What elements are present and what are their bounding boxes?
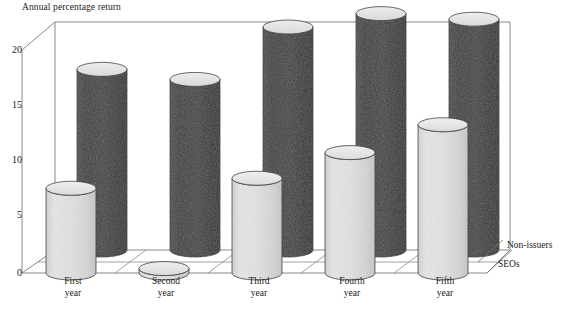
category-label-first-year: First year [40,276,106,299]
y-tick-5: 5 [0,209,22,220]
cylinder-top [170,72,220,86]
figure-caption [14,305,565,313]
bars-layer [46,7,499,280]
category-label-fifth-year: Fifth year [412,276,478,299]
cylinder-top [46,181,96,195]
category-line-2: year [65,288,81,298]
legend-label-non-issuers: Non-issuers [507,240,552,250]
y-axis-title: Annual percentage return [22,2,121,12]
bar-non-issuers-1 [170,72,220,257]
chart-container: Annual percentage return 20 15 10 5 0 Fi… [0,0,565,313]
cylinder-body [170,79,220,257]
category-label-fourth-year: Fourth year [319,276,385,299]
category-line-1: Third [248,276,269,286]
category-label-second-year: Second year [133,276,199,299]
category-label-third-year: Third year [226,276,292,299]
bar-seos-2 [232,171,282,280]
category-line-2: year [158,288,174,298]
bar-seos-0 [46,181,96,280]
cylinder-top [232,171,282,185]
cylinder-top [356,7,406,21]
category-line-1: First [64,276,81,286]
cylinder-top [139,262,189,276]
cylinder-3d-chart [0,0,565,313]
cylinder-top [77,62,127,76]
category-line-2: year [344,288,360,298]
cylinder-body [232,178,282,280]
y-tick-0: 0 [0,267,22,278]
category-line-1: Fourth [339,276,364,286]
bar-seos-4 [418,118,468,280]
y-tick-10: 10 [0,154,22,165]
cylinder-top [263,20,313,34]
y-tick-20: 20 [0,44,22,55]
cylinder-top [325,146,375,160]
category-line-1: Second [152,276,180,286]
cylinder-body [418,125,468,280]
cylinder-top [418,118,468,132]
legend-label-seos: SEOs [498,259,520,269]
cylinder-body [325,153,375,280]
bar-seos-3 [325,146,375,280]
category-line-1: Fifth [436,276,454,286]
cylinder-body [46,188,96,280]
category-line-2: year [437,288,453,298]
category-line-2: year [251,288,267,298]
cylinder-top [449,12,499,26]
y-tick-15: 15 [0,99,22,110]
